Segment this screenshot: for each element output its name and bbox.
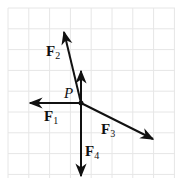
label-f2: F2 xyxy=(46,43,60,61)
label-f4: F4 xyxy=(85,143,99,161)
arrow-f3 xyxy=(81,103,153,139)
label-f3: F3 xyxy=(101,121,115,139)
label-f1: F1 xyxy=(44,108,58,126)
point-p-dot xyxy=(79,101,84,106)
label-p: P xyxy=(64,86,73,101)
